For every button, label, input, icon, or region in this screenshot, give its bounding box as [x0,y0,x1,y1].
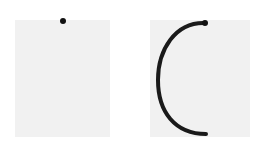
drawing-layer [0,0,255,148]
curved-stroke [158,23,206,134]
start-point-dot [60,18,66,24]
stroke-start-dot [202,20,208,26]
